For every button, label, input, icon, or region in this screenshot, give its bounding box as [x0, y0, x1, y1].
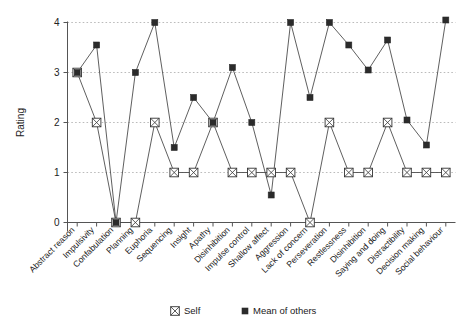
marker-mean-9 — [249, 120, 255, 126]
marker-mean-4 — [152, 20, 158, 26]
marker-mean-13 — [326, 20, 332, 26]
marker-mean-16 — [385, 37, 391, 43]
marker-mean-18 — [423, 142, 429, 148]
legend-marker-mean-of-others — [242, 308, 248, 314]
marker-mean-2 — [113, 220, 119, 226]
chart-legend: SelfMean of others — [171, 305, 317, 316]
y-tick-label: 2 — [54, 117, 60, 128]
legend-label-self: Self — [184, 305, 201, 316]
chart-canvas: 01234RatingAbstract reasonImpulsivityCon… — [0, 0, 473, 329]
marker-mean-0 — [74, 70, 80, 76]
legend-mean-icon — [242, 308, 248, 314]
marker-mean-3 — [132, 70, 138, 76]
marker-mean-14 — [346, 42, 352, 48]
y-tick-label: 0 — [54, 217, 60, 228]
marker-mean-12 — [307, 95, 313, 101]
y-tick-label: 4 — [54, 17, 60, 28]
legend-marker-self — [171, 307, 180, 316]
marker-mean-15 — [365, 67, 371, 73]
marker-mean-6 — [191, 95, 197, 101]
legend-label-mean-of-others: Mean of others — [253, 305, 317, 316]
series-markers-mean-of-others — [74, 17, 449, 226]
marker-mean-7 — [210, 120, 216, 126]
marker-mean-17 — [404, 117, 410, 123]
marker-mean-19 — [443, 17, 449, 23]
rating-comparison-chart: 01234RatingAbstract reasonImpulsivityCon… — [0, 0, 473, 329]
y-axis-label: Rating — [15, 108, 26, 137]
marker-mean-10 — [268, 192, 274, 198]
marker-mean-11 — [288, 20, 294, 26]
y-tick-label: 1 — [54, 167, 60, 178]
y-tick-label: 3 — [54, 67, 60, 78]
marker-mean-1 — [94, 42, 100, 48]
series-markers-self — [73, 68, 450, 227]
marker-mean-5 — [171, 145, 177, 151]
marker-mean-8 — [229, 65, 235, 71]
